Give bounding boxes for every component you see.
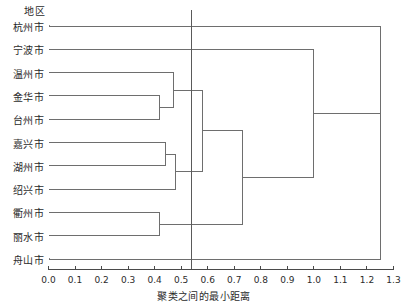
x-axis-tick-label: 0.5 bbox=[174, 275, 188, 285]
x-axis-tick-label: 0.9 bbox=[280, 275, 294, 285]
dendrogram-link bbox=[49, 212, 160, 235]
dendrogram-link bbox=[49, 49, 314, 177]
x-axis-tick-label: 0.4 bbox=[147, 275, 161, 285]
dendrogram-link bbox=[49, 143, 166, 166]
dendrogram-link bbox=[49, 70, 381, 259]
x-axis-label: 聚类之间的最小距离 bbox=[0, 288, 408, 303]
x-axis-tick-label: 0.0 bbox=[41, 275, 55, 285]
dendrogram-link bbox=[49, 96, 160, 119]
x-axis-tick-label: 0.3 bbox=[121, 275, 135, 285]
dendrogram-chart: 地区 杭州市宁波市温州市金华市台州市嘉兴市湖州市绍兴市衢州市丽水市舟山市 0.0… bbox=[0, 0, 408, 308]
x-axis-tick-label: 0.6 bbox=[201, 275, 215, 285]
dendrogram-plot bbox=[0, 0, 408, 308]
dendrogram-link bbox=[49, 73, 174, 108]
x-axis-tick-label: 0.7 bbox=[227, 275, 241, 285]
dendrogram-link bbox=[49, 154, 176, 189]
x-axis-tick-label: 1.3 bbox=[386, 275, 400, 285]
x-axis-tick-label: 0.2 bbox=[94, 275, 108, 285]
x-axis-tick-label: 1.2 bbox=[360, 275, 374, 285]
x-axis-tick-label: 0.1 bbox=[68, 275, 82, 285]
x-axis-tick-label: 0.8 bbox=[254, 275, 268, 285]
dendrogram-link bbox=[160, 131, 242, 224]
dendrogram-link bbox=[49, 26, 381, 113]
dendrogram-link bbox=[173, 90, 202, 172]
x-axis-tick-label: 1.0 bbox=[307, 275, 321, 285]
x-axis-tick-label: 1.1 bbox=[333, 275, 347, 285]
